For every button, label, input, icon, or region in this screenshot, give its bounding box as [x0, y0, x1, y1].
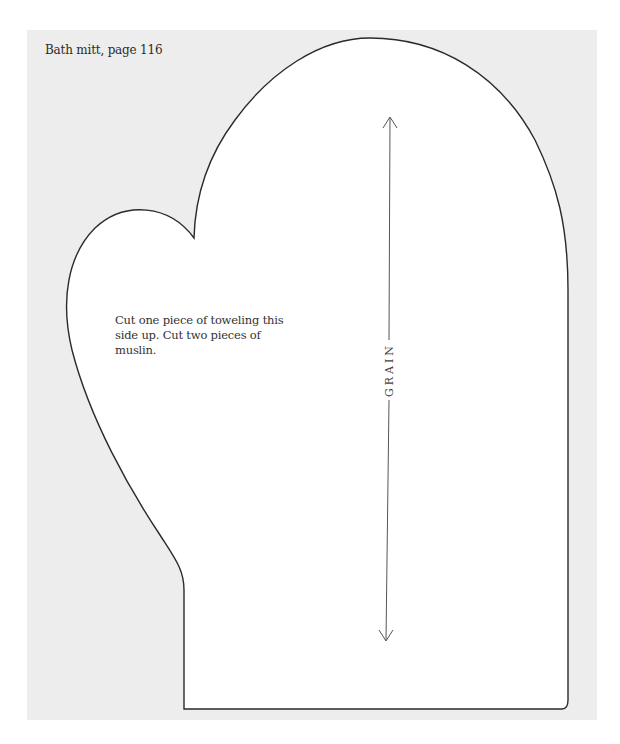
cutting-instructions: Cut one piece of toweling this side up. … [115, 313, 305, 358]
mitt-shape [67, 38, 568, 709]
mitt-pattern-outline [0, 0, 620, 744]
grain-label: GRAIN [383, 341, 396, 399]
page-caption: Bath mitt, page 116 [45, 43, 162, 57]
